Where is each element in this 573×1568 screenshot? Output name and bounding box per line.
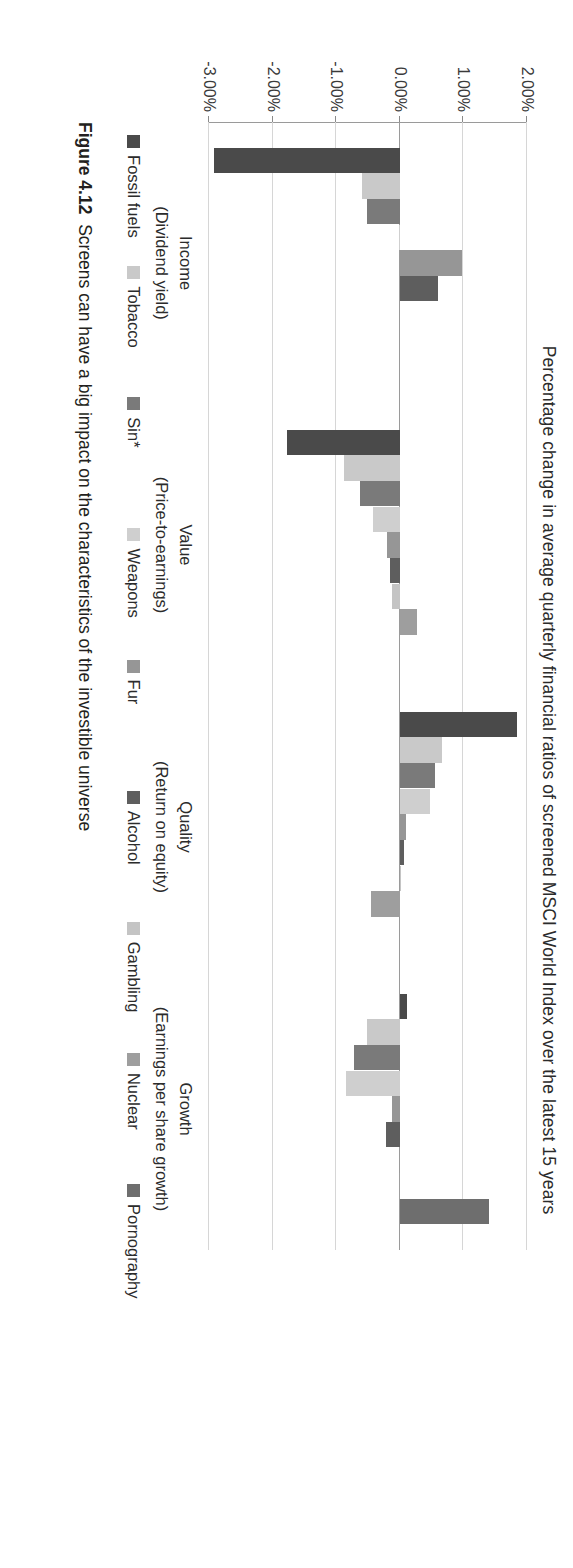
book-page: Percentage change in average quarterly f… <box>0 0 573 1568</box>
legend-label: Nuclear <box>124 1073 143 1130</box>
gridline-neg300 <box>208 122 209 1250</box>
bar-quality-alcohol <box>400 840 404 865</box>
category-label-growth: Growth <box>176 1082 195 1135</box>
legend-item-nuclear[interactable]: Nuclear <box>124 1053 143 1130</box>
bar-growth-fossil-fuels <box>400 994 407 1019</box>
bar-growth-nuclear <box>399 1173 400 1198</box>
bar-quality-sin <box>400 763 435 788</box>
bar-value-fossil-fuels <box>287 430 400 455</box>
category-sublabel-value: (Price-to-earnings) <box>152 477 171 614</box>
category-label-value: Value <box>176 525 195 566</box>
gridline-neg200 <box>272 122 273 1250</box>
legend-label: Alcohol <box>124 811 143 865</box>
bar-growth-alcohol <box>386 1122 399 1147</box>
legend-item-alcohol[interactable]: Alcohol <box>124 791 143 865</box>
bar-income-fur <box>400 250 462 275</box>
legend-label: Fur <box>124 680 143 705</box>
bar-quality-fossil-fuels <box>400 712 518 737</box>
bar-quality-nuclear <box>371 891 400 916</box>
figure-caption: Figure 4.12 Screens can have a big impac… <box>74 122 95 1452</box>
category-sublabel-income: (Dividend yield) <box>152 206 171 320</box>
bar-income-fossil-fuels <box>214 148 400 173</box>
gridline-200 <box>526 122 527 1250</box>
bar-value-weapons <box>373 507 400 532</box>
bar-value-sin <box>360 481 399 506</box>
legend-item-weapons[interactable]: Weapons <box>124 528 143 617</box>
legend-swatch-icon <box>127 266 140 279</box>
bar-growth-tobacco <box>367 1019 400 1044</box>
chart-legend: Fossil fuelsTobaccoSin*WeaponsFurAlcohol… <box>117 122 143 1302</box>
legend-label: Tobacco <box>124 286 143 347</box>
gridline-100 <box>462 122 463 1250</box>
bar-quality-fur <box>400 814 406 839</box>
category-sublabel-growth: (Earnings per share growth) <box>152 1007 171 1212</box>
bar-income-sin <box>367 199 400 224</box>
legend-swatch-icon <box>127 135 140 148</box>
y-tick-label: 0.00% <box>391 67 409 112</box>
legend-label: Weapons <box>124 548 143 617</box>
y-tick-mark <box>526 116 527 122</box>
bar-value-fur <box>387 532 400 557</box>
y-tick-label: -2.00% <box>264 61 282 112</box>
y-tick-label: 1.00% <box>454 67 472 112</box>
legend-item-fossil-fuels[interactable]: Fossil fuels <box>124 135 143 238</box>
legend-item-tobacco[interactable]: Tobacco <box>124 266 143 347</box>
legend-item-pornography[interactable]: Pornography <box>124 1184 143 1298</box>
legend-swatch-icon <box>127 791 140 804</box>
rotated-page-wrapper: Percentage change in average quarterly f… <box>0 0 573 1568</box>
legend-label: Fossil fuels <box>124 155 143 238</box>
y-tick-mark <box>335 116 336 122</box>
legend-swatch-icon <box>127 528 140 541</box>
y-tick-mark <box>462 116 463 122</box>
legend-label: Gambling <box>124 942 143 1013</box>
y-tick-mark <box>399 116 400 122</box>
bar-growth-pornography <box>400 1199 489 1224</box>
bar-value-tobacco <box>344 455 400 480</box>
y-tick-label: -1.00% <box>327 61 345 112</box>
legend-swatch-icon <box>127 1184 140 1197</box>
value-axis-line <box>209 122 527 123</box>
bar-income-weapons <box>399 225 400 250</box>
chart-title: Percentage change in average quarterly f… <box>538 120 559 1440</box>
bar-value-gambling <box>392 584 400 609</box>
legend-swatch-icon <box>127 660 140 673</box>
y-tick-label: -3.00% <box>200 61 218 112</box>
figure-4-12: Percentage change in average quarterly f… <box>78 0 573 1568</box>
category-label-quality: Quality <box>176 801 195 852</box>
legend-label: Sin* <box>124 417 143 447</box>
category-sublabel-quality: (Return on equity) <box>152 761 171 893</box>
legend-item-gambling[interactable]: Gambling <box>124 922 143 1013</box>
bar-growth-sin <box>354 1045 400 1070</box>
legend-item-sin[interactable]: Sin* <box>124 397 143 447</box>
plot-area: 2.00%1.00%0.00%-1.00%-2.00%-3.00%Income(… <box>209 122 527 1250</box>
bar-growth-fur <box>392 1096 400 1121</box>
caption-number: Figure 4.12 <box>75 122 95 214</box>
gridline-neg100 <box>335 122 336 1250</box>
category-label-income: Income <box>176 236 195 290</box>
legend-swatch-icon <box>127 922 140 935</box>
legend-label: Pornography <box>124 1204 143 1298</box>
bar-value-nuclear <box>400 609 417 634</box>
y-tick-mark <box>208 116 209 122</box>
caption-text: Screens can have a big impact on the cha… <box>75 224 95 831</box>
y-tick-mark <box>272 116 273 122</box>
legend-item-fur[interactable]: Fur <box>124 660 143 705</box>
legend-swatch-icon <box>127 397 140 410</box>
bar-quality-gambling <box>400 866 401 891</box>
bar-income-tobacco <box>362 173 400 198</box>
y-tick-label: 2.00% <box>518 67 536 112</box>
bar-income-alcohol <box>400 276 438 301</box>
bar-quality-tobacco <box>400 737 442 762</box>
bar-value-alcohol <box>390 558 400 583</box>
bar-quality-weapons <box>400 789 431 814</box>
bar-growth-weapons <box>346 1071 399 1096</box>
legend-swatch-icon <box>127 1053 140 1066</box>
